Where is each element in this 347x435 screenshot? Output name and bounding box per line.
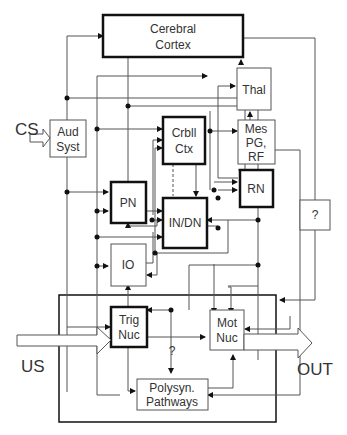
svg-text:?: ?: [312, 208, 319, 222]
svg-text:Ctx: Ctx: [175, 142, 193, 156]
svg-text:IN/DN: IN/DN: [169, 216, 202, 230]
svg-text:Cortex: Cortex: [155, 38, 190, 52]
svg-text:PN: PN: [120, 196, 137, 210]
svg-text:RN: RN: [247, 182, 264, 196]
node-mes-pg-rf: Mes PG, RF: [238, 120, 275, 164]
svg-text:PG,: PG,: [246, 136, 267, 150]
node-thal: Thal: [237, 68, 271, 110]
node-unknown: ?: [300, 200, 330, 230]
circuit-diagram: Cerebral Cortex Thal Aud Syst Crbll Ctx …: [0, 0, 347, 435]
node-aud-syst: Aud Syst: [50, 120, 86, 157]
node-io: IO: [111, 244, 146, 286]
cs-input-arrow: CS: [15, 120, 50, 147]
svg-text:Mes: Mes: [245, 122, 268, 136]
node-in-dn: IN/DN: [163, 198, 207, 248]
svg-text:Mot: Mot: [217, 316, 238, 330]
svg-text:US: US: [21, 357, 45, 376]
svg-text:RF: RF: [248, 150, 264, 164]
question-mark-label: ?: [169, 344, 176, 358]
svg-text:Crbll: Crbll: [172, 126, 197, 140]
node-crbll-ctx: Crbll Ctx: [163, 117, 205, 164]
svg-text:IO: IO: [122, 258, 135, 272]
svg-text:Cerebral: Cerebral: [150, 22, 196, 36]
svg-text:Pathways: Pathways: [146, 395, 198, 409]
node-mot-nuc: Mot Nuc: [210, 310, 244, 350]
node-rn: RN: [240, 170, 273, 207]
svg-text:Trig: Trig: [119, 313, 139, 327]
node-trig-nuc: Trig Nuc: [111, 307, 147, 347]
node-polysyn-pathways: Polysyn. Pathways: [137, 379, 208, 410]
svg-text:Polysyn.: Polysyn.: [149, 381, 194, 395]
svg-text:CS: CS: [15, 120, 39, 139]
svg-text:Aud: Aud: [57, 125, 78, 139]
node-pn: PN: [111, 182, 146, 223]
svg-text:Thal: Thal: [242, 83, 265, 97]
svg-text:OUT: OUT: [297, 360, 333, 379]
svg-text:Nuc: Nuc: [216, 331, 237, 345]
node-cerebral-cortex: Cerebral Cortex: [103, 15, 243, 57]
out-output-arrow: OUT: [244, 328, 333, 379]
svg-text:Syst: Syst: [56, 140, 80, 154]
svg-text:Nuc: Nuc: [118, 328, 139, 342]
